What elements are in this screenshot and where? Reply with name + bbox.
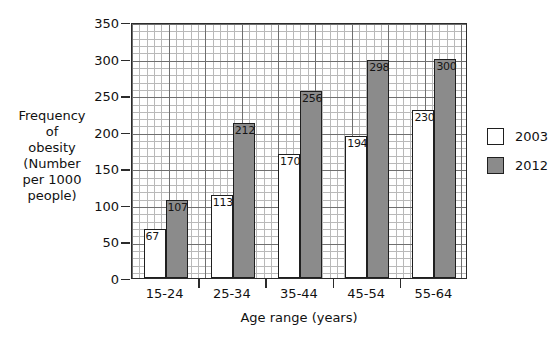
bars-container: 67107113212170256194298230300 [132, 24, 466, 278]
y-axis-tick-label: 100 [0, 200, 131, 213]
y-axis-tick-text: 50 [102, 236, 131, 249]
y-axis-tick-text: 300 [94, 54, 131, 67]
bar-value-label: 230 [414, 112, 434, 124]
x-axis-category-label: 55-64 [400, 286, 467, 301]
y-axis-tick-text: 150 [94, 163, 131, 176]
x-axis-category-label: 35-44 [265, 286, 332, 301]
bar-15-24-2012: 107 [166, 200, 188, 278]
bar-group: 230300 [401, 24, 468, 278]
x-axis-category-label: 25-34 [198, 286, 265, 301]
y-axis-tick-label: 0 [0, 273, 131, 286]
y-axis-tick-label: 300 [0, 54, 131, 67]
bar-value-label: 113 [213, 197, 233, 209]
bar-value-label: 300 [436, 61, 456, 73]
y-axis-tick-text: 250 [94, 90, 131, 103]
y-axis-tick-label: 150 [0, 163, 131, 176]
bar-55-64-2003: 230 [412, 110, 434, 278]
plot-area: 67107113212170256194298230300 [131, 23, 467, 279]
bar-value-label: 256 [302, 93, 322, 105]
bar-45-54-2012: 298 [367, 60, 389, 278]
legend-swatch-2012 [487, 157, 504, 174]
legend-label-2003: 2003 [515, 128, 548, 145]
x-axis-category-label: 45-54 [333, 286, 400, 301]
bar-value-label: 67 [146, 231, 159, 243]
bar-group: 113212 [199, 24, 266, 278]
y-axis-tick-label: 250 [0, 90, 131, 103]
y-axis-tick-text: 200 [94, 127, 131, 140]
bar-55-64-2012: 300 [434, 59, 456, 278]
bar-25-34-2003: 113 [211, 195, 233, 278]
y-axis-tick-label: 200 [0, 127, 131, 140]
legend-swatch-2003 [487, 128, 504, 145]
legend-label-2012: 2012 [515, 157, 548, 174]
y-axis-tick-label: 350 [0, 17, 131, 30]
bar-value-label: 212 [235, 125, 255, 137]
x-axis-categories: 15-2425-3435-4445-5455-64 [131, 286, 467, 304]
bar-group: 194298 [334, 24, 401, 278]
bar-value-label: 298 [369, 62, 389, 74]
bar-value-label: 107 [168, 202, 188, 214]
bar-chart: Frequency of obesity (Number per 1000 pe… [0, 0, 560, 341]
bar-group: 67107 [132, 24, 199, 278]
bar-group: 170256 [266, 24, 333, 278]
bar-35-44-2003: 170 [278, 154, 300, 278]
y-axis-tick-text: 100 [94, 200, 131, 213]
y-axis-tick-text: 350 [94, 17, 131, 30]
bar-value-label: 194 [347, 138, 367, 150]
y-axis-tick-label: 50 [0, 236, 131, 249]
bar-35-44-2012: 256 [300, 91, 322, 278]
bar-25-34-2012: 212 [233, 123, 255, 278]
y-axis-tick-text: 0 [111, 273, 131, 286]
bar-45-54-2003: 194 [345, 136, 367, 278]
bar-15-24-2003: 67 [144, 229, 166, 278]
x-axis-category-label: 15-24 [131, 286, 198, 301]
bar-value-label: 170 [280, 156, 300, 168]
x-axis-title: Age range (years) [131, 310, 467, 325]
y-axis-ticks: 050100150200250300350 [0, 0, 131, 302]
